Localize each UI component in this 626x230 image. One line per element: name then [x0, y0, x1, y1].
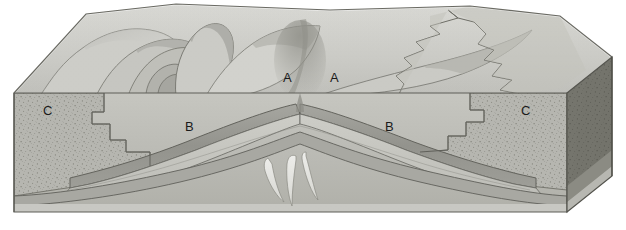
front-face-grain: [14, 93, 567, 212]
label-a-left: A: [283, 71, 292, 84]
block-diagram-canvas: [0, 0, 626, 230]
label-c-left: C: [43, 104, 53, 117]
label-c-right: C: [521, 104, 531, 117]
front-cross-section-face: [14, 93, 567, 214]
label-b-left: B: [185, 120, 194, 133]
label-a-right: A: [330, 71, 339, 84]
block-diagram-figure: A A B B C C: [0, 0, 626, 230]
label-b-right: B: [385, 120, 394, 133]
